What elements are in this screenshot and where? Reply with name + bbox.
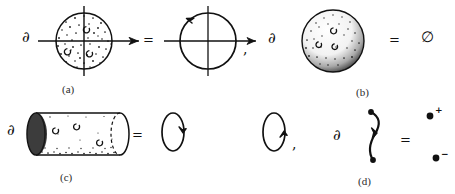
- arc-endpoint-upper: [368, 109, 374, 115]
- panel-d-boundary-operator: ∂: [333, 128, 341, 143]
- downward-arrowhead-icon: [179, 127, 186, 133]
- panel-c-equals-sign: =: [132, 128, 143, 141]
- panel-a-lhs-stippled-disk: [32, 0, 150, 84]
- panel-c-boundary-operator: ∂: [7, 123, 15, 138]
- panel-d-rhs-plus-label: +: [435, 105, 443, 115]
- ellipse-outline: [162, 113, 184, 151]
- panel-b-boundary-operator: ∂: [268, 31, 276, 46]
- panel-a-boundary-operator: ∂: [22, 30, 30, 45]
- point-dot: [427, 113, 434, 120]
- panel-d-rhs-minus-label: −: [441, 149, 449, 159]
- panel-b-caption: (b): [356, 86, 369, 98]
- panel-c-caption: (c): [60, 171, 72, 183]
- upward-arrowhead-icon: [280, 131, 287, 137]
- panel-b-rhs-empty-set: ∅: [421, 30, 434, 45]
- point-dot: [433, 155, 440, 162]
- panel-c-rhs-oriented-circle-1: [152, 105, 194, 163]
- panel-a-caption: (a): [62, 83, 74, 95]
- figure-canvas: ∂: [0, 0, 455, 194]
- arc-endpoint-lower: [370, 157, 376, 163]
- panel-c-rhs-oriented-circle-2: [253, 105, 295, 163]
- panel-d-lhs-oriented-arc: [350, 104, 398, 170]
- ellipse-outline: [263, 113, 285, 151]
- panel-a-trailing-comma: ,: [243, 42, 247, 56]
- panel-a-equals-sign: =: [143, 33, 154, 46]
- panel-d-equals-sign: =: [400, 133, 411, 146]
- panel-c-trailing-comma: ,: [292, 137, 296, 151]
- panel-c-lhs-cylinder: [22, 103, 138, 165]
- panel-d-caption: (d): [358, 175, 371, 187]
- panel-b-lhs-solid-ball: [292, 3, 374, 85]
- panel-b-equals-sign: =: [389, 33, 400, 46]
